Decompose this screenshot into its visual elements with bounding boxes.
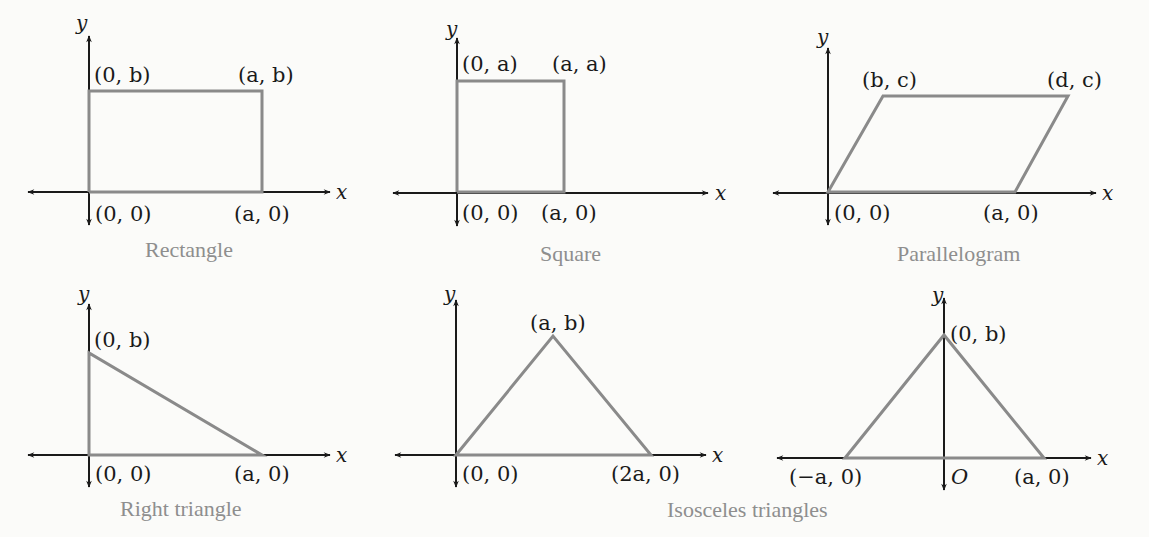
y-axis-label: y — [443, 282, 456, 306]
vertex-label-0-b: (0, b) — [950, 322, 1007, 346]
caption-rectangle: Rectangle — [145, 237, 233, 262]
caption-square: Square — [540, 241, 601, 266]
y-axis-label: y — [931, 283, 944, 307]
origin-label: O — [951, 465, 968, 489]
figure-square: y x (0, 0) (a, 0) (a, a) (0, a) Square — [393, 17, 726, 266]
y-axis-label: y — [816, 25, 829, 49]
y-axis-label: y — [75, 11, 88, 35]
y-axis-label: y — [77, 282, 90, 306]
vertex-label-a-a: (a, a) — [552, 52, 607, 76]
coordinate-figures-diagram: y x (0, 0) (a, 0) (a, b) (0, b) Rectangl… — [0, 0, 1149, 537]
vertex-label-origin: (0, 0) — [462, 201, 518, 225]
vertex-label-a-0: (a, 0) — [541, 201, 597, 225]
x-axis-label: x — [336, 180, 347, 204]
vertex-label-d-c: (d, c) — [1047, 68, 1102, 92]
vertex-label-0-b: (0, b) — [94, 63, 151, 87]
vertex-label-a-0: (a, 0) — [983, 201, 1039, 225]
figure-right-triangle: y x (0, 0) (a, 0) (0, b) Right triangle — [28, 282, 347, 521]
x-axis-label: x — [1102, 181, 1113, 205]
square-shape — [457, 81, 564, 192]
caption-parallelogram: Parallelogram — [897, 241, 1020, 266]
figure-rectangle: y x (0, 0) (a, 0) (a, b) (0, b) Rectangl… — [28, 11, 347, 262]
vertex-label-origin: (0, 0) — [95, 202, 151, 226]
vertex-label-0-b: (0, b) — [94, 328, 151, 352]
figure-isosceles-triangle-2: y x (−a, 0) (a, 0) (0, b) O — [777, 283, 1108, 490]
rectangle-shape — [89, 91, 262, 192]
right-triangle-shape — [89, 353, 262, 455]
vertex-label-origin: (0, 0) — [95, 462, 151, 486]
caption-right-triangle: Right triangle — [120, 496, 242, 521]
vertex-label-origin: (0, 0) — [462, 462, 518, 486]
vertex-label-neg-a-0: (−a, 0) — [789, 465, 862, 489]
caption-isosceles-triangles: Isosceles triangles — [667, 497, 828, 522]
vertex-label-2a-0: (2a, 0) — [611, 462, 680, 486]
parallelogram-shape — [828, 96, 1068, 192]
figure-isosceles-triangle-1: y x (0, 0) (2a, 0) (a, b) — [395, 282, 723, 487]
vertex-label-0-a: (0, a) — [462, 52, 518, 76]
vertex-label-a-b: (a, b) — [530, 311, 586, 335]
x-axis-label: x — [712, 443, 723, 467]
figure-parallelogram: y x (0, 0) (a, 0) (d, c) (b, c) Parallel… — [773, 25, 1113, 266]
x-axis-label: x — [715, 181, 726, 205]
x-axis-label: x — [336, 443, 347, 467]
vertex-label-a-0: (a, 0) — [234, 462, 290, 486]
x-axis-label: x — [1097, 446, 1108, 470]
vertex-label-a-0: (a, 0) — [234, 202, 290, 226]
y-axis-label: y — [445, 17, 458, 41]
vertex-label-origin: (0, 0) — [834, 201, 890, 225]
isosceles-triangle-shape — [456, 336, 651, 455]
vertex-label-a-0: (a, 0) — [1014, 465, 1070, 489]
vertex-label-a-b: (a, b) — [238, 63, 294, 87]
vertex-label-b-c: (b, c) — [862, 68, 917, 92]
